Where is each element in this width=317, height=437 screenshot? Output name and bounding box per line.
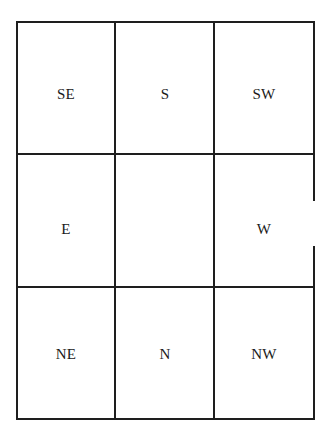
border-right-lower [313, 246, 315, 420]
divider-vertical-1 [114, 21, 116, 420]
border-top [17, 21, 315, 23]
divider-vertical-2 [213, 21, 215, 420]
border-bottom [17, 418, 315, 420]
cell-label-w: W [257, 221, 271, 238]
divider-horizontal-1 [17, 153, 315, 155]
cell-label-nw: NW [251, 346, 277, 363]
direction-grid: SE S SW E W NE N NW [0, 0, 317, 437]
cell-label-sw: SW [252, 86, 275, 103]
border-left [16, 21, 18, 420]
cell-label-ne: NE [56, 346, 77, 363]
divider-horizontal-2 [17, 286, 315, 288]
cell-label-e: E [61, 221, 70, 238]
cell-label-se: SE [57, 86, 75, 103]
cell-label-n: N [159, 346, 170, 363]
border-right-upper [313, 21, 315, 201]
cell-label-s: S [161, 86, 170, 103]
